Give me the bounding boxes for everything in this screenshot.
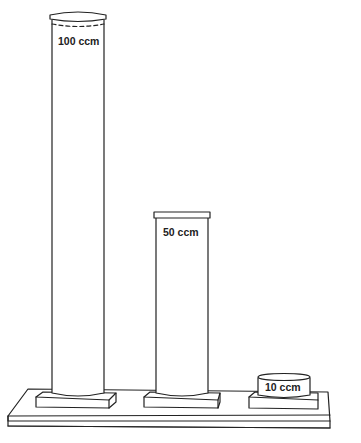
- label-100-ccm: 100 ccm: [58, 35, 99, 47]
- label-50-ccm: 50 ccm: [163, 226, 199, 238]
- cylinder-large: [50, 12, 106, 396]
- label-10-ccm: 10 ccm: [265, 381, 301, 393]
- diagram-canvas: [0, 0, 361, 443]
- cylinder-medium: [154, 212, 210, 396]
